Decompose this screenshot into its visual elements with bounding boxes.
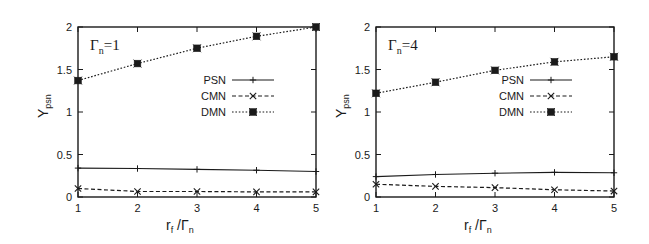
y-tick-label: 2 — [66, 21, 72, 33]
y-tick-label: 0 — [364, 191, 370, 203]
legend-item-dmn: DMN — [201, 106, 274, 118]
x-tick-label: 5 — [313, 202, 319, 214]
x-tick-label: 1 — [75, 202, 81, 214]
svg-text:DMN: DMN — [499, 106, 524, 118]
series-dmn — [372, 53, 618, 98]
x-axis-label: rf /Γn — [166, 217, 194, 235]
series-dmn — [74, 23, 320, 85]
svg-text:PSN: PSN — [203, 74, 226, 86]
series-psn — [75, 165, 319, 175]
plot-panel-gamma-1: Γn=1 Ypsn rf /Γn 00.511.5212345PSNCMNDMN — [35, 21, 320, 235]
x-tick-label: 3 — [492, 202, 498, 214]
y-axis-label: Ypsn — [333, 94, 351, 118]
figure: Γn=1 Ypsn rf /Γn 00.511.5212345PSNCMNDMN… — [0, 0, 649, 244]
x-tick-label: 4 — [551, 202, 557, 214]
y-tick-label: 0.5 — [355, 149, 370, 161]
x-axis-label: rf /Γn — [464, 217, 492, 235]
x-tick-label: 4 — [253, 202, 259, 214]
legend-item-dmn: DMN — [499, 106, 572, 118]
panel-title: Γn=1 — [90, 37, 120, 56]
y-tick-label: 1 — [66, 106, 72, 118]
legend-item-cmn: CMN — [201, 90, 274, 102]
y-tick-label: 0.5 — [57, 149, 72, 161]
y-tick-label: 1 — [364, 106, 370, 118]
svg-text:CMN: CMN — [201, 90, 226, 102]
legend-item-psn: PSN — [501, 74, 572, 86]
y-tick-label: 1.5 — [355, 64, 370, 76]
x-tick-label: 5 — [611, 202, 617, 214]
svg-text:PSN: PSN — [501, 74, 524, 86]
series-psn — [373, 169, 617, 180]
x-tick-label: 2 — [134, 202, 140, 214]
y-tick-label: 1.5 — [57, 64, 72, 76]
panel-title: Γn=4 — [388, 37, 418, 56]
x-tick-label: 1 — [373, 202, 379, 214]
y-tick-label: 0 — [66, 191, 72, 203]
legend-item-cmn: CMN — [499, 90, 572, 102]
y-axis-label: Ypsn — [35, 94, 53, 118]
y-tick-label: 2 — [364, 21, 370, 33]
svg-text:DMN: DMN — [201, 106, 226, 118]
legend-item-psn: PSN — [203, 74, 274, 86]
svg-text:CMN: CMN — [499, 90, 524, 102]
x-tick-label: 2 — [432, 202, 438, 214]
plot-panel-gamma-4: Γn=4 Ypsn rf /Γn 00.511.5212345PSNCMNDMN — [333, 21, 618, 235]
x-tick-label: 3 — [194, 202, 200, 214]
